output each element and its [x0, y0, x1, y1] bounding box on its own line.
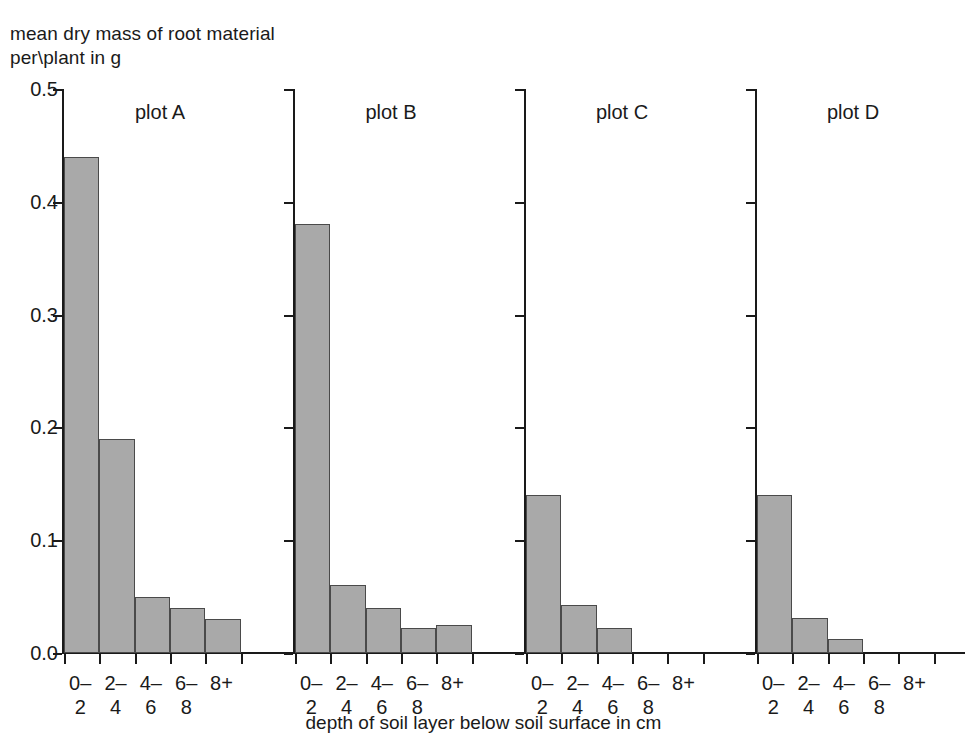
y-axis-tick: [53, 427, 62, 429]
x-axis-tick: [64, 653, 66, 664]
x-axis-title: depth of soil layer below soil surface i…: [0, 712, 967, 734]
bar-0-2: [64, 157, 99, 653]
x-axis-tick: [934, 653, 936, 664]
x-axis-tick: [792, 653, 794, 664]
x-axis-tick: [561, 653, 563, 664]
y-axis-tick: [53, 89, 62, 91]
y-axis-tick: [746, 89, 755, 91]
y-axis-tick: [284, 653, 293, 655]
chart-panel-plot-b: plot B0– 22– 44– 66– 88+: [293, 89, 489, 653]
y-axis-tick: [53, 540, 62, 542]
y-axis-tick: [53, 653, 62, 655]
y-axis-tick: [284, 427, 293, 429]
y-axis-tick-labels: 0.00.10.20.30.40.5: [6, 0, 58, 750]
x-axis-tick-label: 8+: [903, 671, 926, 695]
x-axis-tick: [597, 653, 599, 664]
panel-group: plot A0– 22– 44– 66– 88+plot B0– 22– 44–…: [62, 89, 952, 653]
x-axis-tick-label: 8+: [441, 671, 464, 695]
bar-6-8: [170, 608, 205, 653]
x-axis-tick: [757, 653, 759, 664]
bar-4-6: [366, 608, 401, 653]
bar-4-6: [597, 628, 632, 653]
x-axis-tick: [667, 653, 669, 664]
bar-8+: [205, 619, 240, 653]
bar-group: [757, 89, 953, 653]
y-axis-tick: [284, 89, 293, 91]
bar-2-4: [792, 618, 827, 653]
bar-4-6: [828, 639, 863, 653]
y-axis-tick: [515, 653, 524, 655]
x-axis-tick-label: 8+: [672, 671, 695, 695]
y-axis-tick: [746, 540, 755, 542]
bar-6-8: [401, 628, 436, 653]
x-axis-tick: [703, 653, 705, 664]
x-axis-tick: [366, 653, 368, 664]
y-axis-tick: [284, 315, 293, 317]
x-axis-tick: [863, 653, 865, 664]
bar-group: [64, 89, 260, 653]
x-axis-tick: [170, 653, 172, 664]
x-axis-tick: [241, 653, 243, 664]
y-axis-tick: [515, 540, 524, 542]
x-axis-tick: [99, 653, 101, 664]
y-axis-tick: [515, 427, 524, 429]
x-axis-tick: [632, 653, 634, 664]
y-axis-tick: [53, 202, 62, 204]
bar-0-2: [526, 495, 561, 653]
bar-0-2: [295, 224, 330, 653]
y-axis-tick: [515, 89, 524, 91]
x-axis-tick: [295, 653, 297, 664]
bar-group: [295, 89, 491, 653]
x-axis-tick: [828, 653, 830, 664]
bar-0-2: [757, 495, 792, 653]
x-axis-tick: [135, 653, 137, 664]
bar-8+: [436, 625, 471, 653]
y-axis-tick: [515, 315, 524, 317]
x-axis-tick: [472, 653, 474, 664]
x-axis-tick: [436, 653, 438, 664]
bar-2-4: [330, 585, 365, 653]
bar-4-6: [135, 597, 170, 653]
x-axis-tick: [401, 653, 403, 664]
y-axis-tick: [284, 202, 293, 204]
bar-2-4: [99, 439, 134, 653]
y-axis-tick: [746, 202, 755, 204]
chart-panel-plot-a: plot A0– 22– 44– 66– 88+: [62, 89, 258, 653]
x-axis-tick: [898, 653, 900, 664]
y-axis-tick: [746, 653, 755, 655]
y-axis-tick: [515, 202, 524, 204]
x-axis-tick: [526, 653, 528, 664]
chart-panel-plot-c: plot C0– 22– 44– 66– 88+: [524, 89, 720, 653]
bar-2-4: [561, 605, 596, 654]
chart-figure: mean dry mass of root materialper\plant …: [0, 0, 967, 750]
bar-group: [526, 89, 722, 653]
y-axis-tick: [746, 427, 755, 429]
y-axis-tick: [53, 315, 62, 317]
x-axis-tick-label: 8+: [210, 671, 233, 695]
x-axis-tick: [205, 653, 207, 664]
y-axis-tick: [746, 315, 755, 317]
y-axis-tick: [284, 540, 293, 542]
chart-panel-plot-d: plot D0– 22– 44– 66– 88+: [755, 89, 951, 653]
x-axis-tick: [330, 653, 332, 664]
